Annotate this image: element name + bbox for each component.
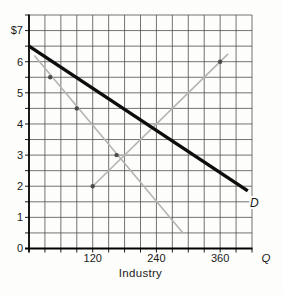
y-tick-label: 0 [17, 242, 23, 254]
x-axis-quantity-label: Q [262, 252, 271, 264]
y-tick-label: 2 [17, 180, 23, 192]
industry-demand-supply-chart: 1202403600123456$7QD Industry [0, 0, 283, 295]
data-point-marker [48, 75, 52, 79]
data-point-marker [114, 153, 118, 157]
data-point-marker [91, 184, 95, 188]
chart-canvas: 1202403600123456$7QD [0, 0, 283, 295]
data-point-marker [218, 60, 222, 64]
y-tick-label: 3 [17, 149, 23, 161]
x-tick-label: 120 [84, 252, 102, 264]
x-axis-title: Industry [29, 267, 252, 279]
y-tick-label: 6 [17, 56, 23, 68]
data-point-marker [75, 106, 79, 110]
x-tick-label: 360 [211, 252, 229, 264]
y-tick-label: 1 [17, 211, 23, 223]
x-tick-label: 240 [147, 252, 165, 264]
y-tick-label: 4 [17, 118, 23, 130]
demand-curve-D-label: D [250, 196, 259, 210]
y-tick-label: 5 [17, 87, 23, 99]
y-tick-label: $7 [11, 24, 23, 36]
